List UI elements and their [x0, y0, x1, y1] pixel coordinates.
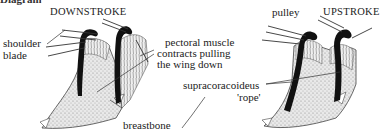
label-pulley: pulley — [272, 6, 300, 18]
label-blade: blade — [3, 49, 27, 61]
panel-title-upstroke: UPSTROKE — [323, 6, 380, 18]
label-rope: 'rope' — [237, 91, 261, 103]
downstroke-illustration — [40, 19, 148, 128]
upstroke-illustration — [262, 16, 372, 128]
label-wing-down: the wing down — [157, 58, 222, 70]
label-shoulder: shoulder — [3, 37, 41, 49]
label-supracoracoideus: supracoracoideus — [183, 79, 259, 91]
label-breastbone: breastbone — [123, 119, 171, 131]
bird-flight-muscle-diagram: Diagram — [0, 0, 383, 136]
panel-title-downstroke: DOWNSTROKE — [50, 6, 127, 18]
